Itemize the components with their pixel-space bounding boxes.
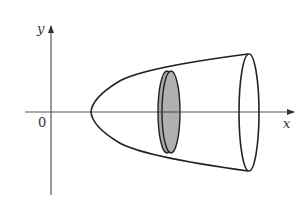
x-axis-label: x (283, 116, 291, 131)
origin-label: 0 (38, 115, 46, 130)
diagram-canvas: y x 0 (0, 0, 308, 198)
y-axis-label: y (36, 21, 45, 36)
